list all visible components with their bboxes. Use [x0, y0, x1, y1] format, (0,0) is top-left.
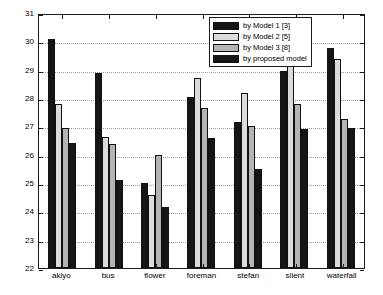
bar — [155, 155, 162, 268]
bar-chart-figure: 22232425262728293031 akiyobusflowerforem… — [0, 0, 383, 295]
bar — [241, 93, 248, 268]
bar-groups — [39, 15, 364, 268]
legend: by Model 1 [3]by Model 2 [5]by Model 3 [… — [209, 17, 312, 67]
bar — [341, 119, 348, 268]
x-tick-mark — [203, 264, 204, 268]
y-tick-label: 24 — [4, 208, 34, 216]
x-tick-mark — [343, 15, 344, 19]
bar — [301, 129, 308, 268]
bar — [234, 122, 241, 268]
x-tick-mark — [343, 264, 344, 268]
x-tick-label: stefan — [225, 272, 272, 288]
y-tick-label: 22 — [4, 265, 34, 273]
bar — [348, 128, 355, 268]
legend-row: by proposed model — [213, 54, 307, 63]
bar — [116, 180, 123, 268]
bar-group — [141, 15, 169, 268]
y-tick-mark — [360, 270, 364, 271]
bar-group — [48, 15, 76, 268]
plot-area — [38, 14, 365, 269]
x-tick-mark — [109, 264, 110, 268]
bar — [141, 183, 148, 268]
x-tick-label: waterfall — [318, 272, 365, 288]
y-tick-mark — [39, 270, 43, 271]
x-tick-mark — [296, 264, 297, 268]
x-tick-mark — [203, 15, 204, 19]
x-tick-label: silent — [272, 272, 319, 288]
y-tick-label: 23 — [4, 237, 34, 245]
y-tick-label: 29 — [4, 67, 34, 75]
legend-label: by Model 1 [3] — [243, 22, 290, 30]
x-tick-label: flower — [131, 272, 178, 288]
y-tick-label: 25 — [4, 180, 34, 188]
x-tick-label: bus — [85, 272, 132, 288]
bar — [48, 39, 55, 269]
bar — [102, 137, 109, 268]
legend-swatch — [213, 33, 239, 41]
bar — [148, 195, 155, 268]
legend-label: by Model 3 [8] — [243, 44, 290, 52]
x-tick-label: foreman — [178, 272, 225, 288]
bar — [194, 78, 201, 268]
y-tick-label: 31 — [4, 10, 34, 18]
legend-swatch — [213, 44, 239, 52]
legend-row: by Model 3 [8] — [213, 43, 307, 52]
legend-label: by proposed model — [243, 55, 307, 63]
y-tick-label: 27 — [4, 123, 34, 131]
bar — [95, 73, 102, 269]
bar — [327, 48, 334, 268]
x-tick-mark — [249, 264, 250, 268]
bar — [162, 207, 169, 268]
x-tick-mark — [62, 264, 63, 268]
legend-label: by Model 2 [5] — [243, 33, 290, 41]
bar — [187, 97, 194, 268]
bar — [109, 144, 116, 268]
bar-group — [327, 15, 355, 268]
x-tick-mark — [62, 15, 63, 19]
x-tick-mark — [156, 264, 157, 268]
bar — [248, 126, 255, 268]
x-tick-mark — [156, 15, 157, 19]
legend-swatch — [213, 22, 239, 30]
bar — [287, 64, 294, 268]
y-tick-label: 30 — [4, 38, 34, 46]
bar — [255, 169, 262, 268]
bar-group — [95, 15, 123, 268]
x-tick-mark — [109, 15, 110, 19]
bar — [334, 59, 341, 268]
legend-row: by Model 1 [3] — [213, 21, 307, 30]
bar — [294, 104, 301, 268]
bar — [280, 71, 287, 268]
legend-row: by Model 2 [5] — [213, 32, 307, 41]
x-tick-label: akiyo — [38, 272, 85, 288]
x-axis-labels: akiyobusflowerforemanstefansilentwaterfa… — [38, 272, 365, 288]
bar — [55, 104, 62, 268]
bar — [62, 128, 69, 268]
legend-swatch — [213, 55, 239, 63]
y-tick-label: 28 — [4, 95, 34, 103]
bar — [201, 108, 208, 268]
y-tick-label: 26 — [4, 152, 34, 160]
bar — [69, 143, 76, 268]
bar — [208, 138, 215, 268]
